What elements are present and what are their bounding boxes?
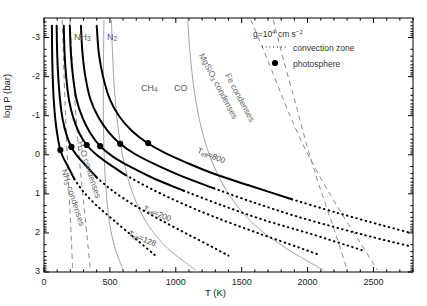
- molecule-label-co: CO: [174, 84, 188, 93]
- x-tick-label-5: 2500: [362, 278, 384, 287]
- x-axis-title: T (K): [205, 288, 226, 298]
- photosphere-marker-1: [68, 144, 74, 150]
- profile-convection-5: [292, 199, 411, 233]
- y-tick-label-5: 2: [18, 228, 40, 237]
- y-tick-label-4: 1: [18, 189, 40, 198]
- y-tick-label-3: 0: [18, 150, 40, 159]
- photosphere-marker-0: [57, 147, 63, 153]
- profile-convection-3: [184, 191, 363, 251]
- y-tick-label-6: 3: [18, 267, 40, 276]
- y-tick-label-1: -2: [18, 72, 40, 81]
- x-tick-label-2: 1000: [165, 278, 187, 287]
- legend-gravity: g=104 cm s−2: [253, 29, 303, 38]
- condensation-curve-2: [251, 20, 378, 270]
- profile-convection-4: [214, 188, 410, 246]
- molecule-label-ch4: CH4: [141, 84, 158, 94]
- profile-solid-2: [64, 26, 126, 175]
- y-tick-label-0: -3: [18, 33, 40, 42]
- condensation-curve-3: [273, 20, 347, 270]
- molecule-label-n2: N2: [107, 33, 117, 43]
- profile-solid-4: [81, 26, 214, 189]
- figure-panel: log P (bar) T (K) g=104 cm s−2 convectio…: [0, 0, 427, 306]
- x-tick-label-3: 1500: [231, 278, 253, 287]
- x-tick-label-4: 2000: [297, 278, 319, 287]
- y-tick-label-2: -1: [18, 111, 40, 120]
- photosphere-marker-5: [145, 140, 151, 146]
- molecule-label-nh3: NH3: [74, 33, 91, 43]
- legend-convection-label: convection zone: [293, 44, 354, 53]
- x-tick-label-1: 500: [99, 278, 121, 287]
- chem-boundary-1: [111, 20, 195, 270]
- profile-solid-5: [97, 26, 292, 200]
- x-tick-label-0: 0: [33, 278, 55, 287]
- legend-photosphere-label: photosphere: [293, 60, 340, 69]
- photosphere-marker-3: [97, 143, 103, 149]
- y-axis-title: log P (bar): [2, 74, 12, 118]
- photosphere-marker-4: [117, 141, 123, 147]
